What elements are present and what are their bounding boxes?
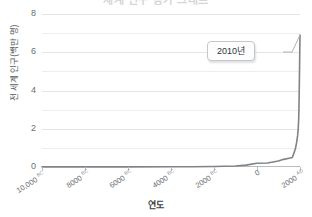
population-line-series — [42, 14, 300, 167]
x-tick-label: 0 — [253, 168, 261, 178]
annotation-callout-2010[interactable]: 2010년 — [207, 41, 255, 61]
x-axis-title: 연도 — [0, 198, 312, 211]
world-population-chart: 세계 인구 증가 그래프 전 세계 인구(백만 명) 02468 10,000 … — [0, 0, 312, 217]
y-tick-label: 6 — [22, 47, 36, 56]
x-tick-label: 2000 AD — [279, 168, 306, 191]
x-axis-tick-labels: 10,000 BC8000 BC6000 BC4000 BC2000 BC020… — [0, 168, 312, 202]
chart-title: 세계 인구 증가 그래프 — [0, 0, 312, 5]
x-tick-label: 10,000 BC — [14, 169, 47, 195]
x-tick-label: 2000 BC — [193, 168, 220, 191]
x-tick-label: 4000 BC — [150, 168, 177, 191]
x-tick-label: 8000 BC — [64, 168, 91, 191]
y-tick-label: 4 — [22, 86, 36, 95]
x-tick-label: 6000 BC — [107, 168, 134, 191]
y-tick-label: 8 — [22, 9, 36, 18]
plot-area — [42, 14, 300, 167]
y-tick-label: 2 — [22, 124, 36, 133]
